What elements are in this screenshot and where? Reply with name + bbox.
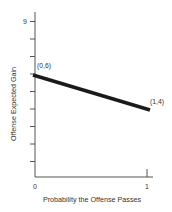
point-label-start: (0,6) [37,62,51,70]
expected-gain-line [33,75,150,110]
point-label-end: (1,4) [150,98,164,106]
x-tick-label-0: 0 [33,183,37,190]
y-tick-label-9: 9 [23,18,27,25]
y-axis-label: Offense Expected Gain [9,67,18,141]
y-ticks [30,22,35,162]
x-tick-label-1: 1 [145,183,149,190]
chart-container: 9 0 1 (0,6) (1,4) Probability the Offens… [0,0,172,212]
chart-svg: 9 0 1 (0,6) (1,4) Probability the Offens… [0,0,172,212]
x-axis-label: Probability the Offense Passes [43,195,142,204]
